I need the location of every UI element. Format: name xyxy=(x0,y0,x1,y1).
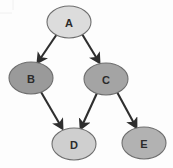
diagram-canvas: ABCDE xyxy=(0,0,173,168)
nodes-layer: ABCDE xyxy=(9,6,166,160)
node-a[interactable]: A xyxy=(47,6,91,38)
edge-b-to-d xyxy=(41,92,62,128)
edge-a-to-c xyxy=(82,34,99,62)
node-b-label: B xyxy=(27,73,35,85)
edge-c-to-d xyxy=(81,93,97,128)
node-a-label: A xyxy=(65,17,73,29)
node-c[interactable]: C xyxy=(84,63,128,95)
node-c-label: C xyxy=(102,74,110,86)
frame-hints xyxy=(0,0,13,13)
node-d[interactable]: D xyxy=(52,128,96,160)
graph-svg: ABCDE xyxy=(0,0,173,168)
edge-c-to-e xyxy=(117,92,136,127)
node-e-label: E xyxy=(140,138,147,150)
node-b[interactable]: B xyxy=(9,62,53,94)
node-e[interactable]: E xyxy=(122,127,166,159)
edge-a-to-b xyxy=(38,34,57,62)
node-d-label: D xyxy=(70,139,78,151)
